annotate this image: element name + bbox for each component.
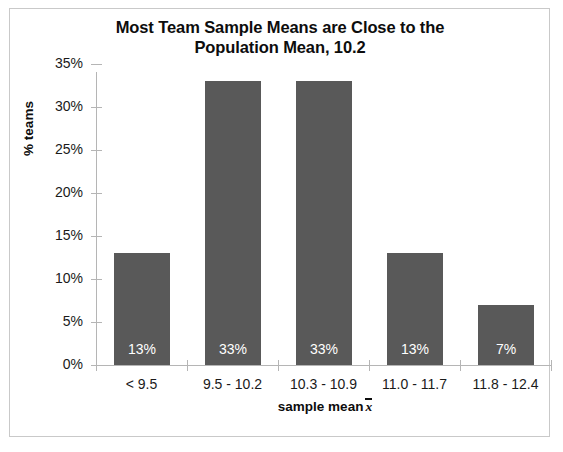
y-axis-tick-label: 15% — [33, 227, 83, 243]
x-bar-symbol-icon: x — [363, 399, 374, 414]
plot-area: 0%5%10%15%20%25%30%35% 13%33%33%13%7% < … — [96, 64, 551, 365]
x-axis-title-text: sample mean — [278, 399, 364, 414]
x-axis-tick — [460, 360, 461, 371]
x-axis-category-label: 11.0 - 11.7 — [369, 376, 460, 392]
y-axis-tick: 25% — [91, 150, 102, 151]
y-axis-tick: 5% — [91, 322, 102, 323]
x-axis-category-label: 11.8 - 12.4 — [460, 376, 551, 392]
x-axis-tick — [278, 360, 279, 371]
x-axis-tick — [96, 360, 97, 371]
x-axis-tick — [551, 360, 552, 371]
y-axis-tick-label: 20% — [33, 184, 83, 200]
bar-value-label: 33% — [205, 341, 261, 357]
chart-title-line-2: Population Mean, 10.2 — [50, 37, 510, 57]
y-axis-tick-label: 0% — [33, 356, 83, 372]
y-axis-tick: 20% — [91, 193, 102, 194]
bar[interactable]: 7% — [478, 305, 534, 365]
x-axis-tick — [187, 360, 188, 371]
y-axis-tick: 30% — [91, 107, 102, 108]
bar[interactable]: 33% — [296, 81, 352, 365]
bar[interactable]: 13% — [387, 253, 443, 365]
y-axis-tick: 35% — [91, 64, 102, 65]
y-axis-tick-label: 30% — [33, 98, 83, 114]
bar-value-label: 33% — [296, 341, 352, 357]
bar-value-label: 13% — [387, 341, 443, 357]
x-axis-line — [96, 365, 551, 366]
x-axis-category-label: 10.3 - 10.9 — [278, 376, 369, 392]
y-axis-tick-label: 35% — [33, 55, 83, 71]
y-axis-tick: 15% — [91, 236, 102, 237]
y-axis-tick-label: 25% — [33, 141, 83, 157]
bar[interactable]: 33% — [205, 81, 261, 365]
x-axis-category-label: < 9.5 — [96, 376, 187, 392]
y-axis-tick: 10% — [91, 279, 102, 280]
x-axis-tick — [369, 360, 370, 371]
bar-value-label: 13% — [114, 341, 170, 357]
y-axis-tick-label: 5% — [33, 313, 83, 329]
x-axis-category-label: 9.5 - 10.2 — [187, 376, 278, 392]
bar[interactable]: 13% — [114, 253, 170, 365]
chart-frame: Most Team Sample Means are Close to the … — [9, 8, 550, 437]
x-axis-title: sample meanx — [96, 399, 556, 415]
y-axis-tick-label: 10% — [33, 270, 83, 286]
chart-title: Most Team Sample Means are Close to the … — [50, 17, 510, 57]
chart-title-line-1: Most Team Sample Means are Close to the — [50, 17, 510, 37]
bar-value-label: 7% — [478, 341, 534, 357]
